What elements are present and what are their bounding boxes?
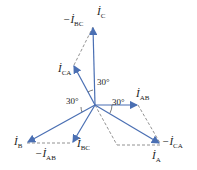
angle-label-right: 30° [112, 98, 125, 107]
label-ibc: İBC [77, 138, 90, 152]
label-ib: İB [14, 136, 22, 150]
label-ica: İCA [58, 63, 71, 77]
label-iab: İAB [136, 88, 149, 102]
phasor-diagram: İC −İBC İCA İAB −İCA İA İB −İAB İBC 30° … [0, 0, 197, 170]
label-neg-ibc: −İBC [63, 14, 83, 28]
label-ic: İC [97, 6, 105, 20]
angle-label-left: 30° [66, 97, 79, 106]
angle-label-top: 30° [97, 78, 110, 87]
label-neg-iab: −İAB [35, 148, 56, 162]
label-neg-ica: −İCA [162, 136, 183, 150]
label-ia: İA [152, 150, 161, 164]
